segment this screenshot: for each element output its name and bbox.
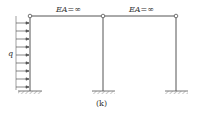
frame-drawing — [0, 0, 197, 115]
fixed-support-middle-icon — [92, 91, 115, 94]
load-label: q — [8, 50, 13, 58]
hinge-middle-icon — [101, 14, 105, 18]
frame-diagram: EA=∞ EA=∞ q (k) — [0, 0, 197, 115]
fixed-support-right-icon — [165, 91, 188, 94]
hinge-left-icon — [28, 14, 32, 18]
fixed-support-left-icon — [18, 91, 42, 94]
beam-left-label: EA=∞ — [56, 6, 81, 14]
distributed-load — [16, 16, 29, 90]
figure-caption: (k) — [96, 100, 107, 108]
hinge-right-icon — [174, 14, 178, 18]
beam-right-label: EA=∞ — [129, 6, 154, 14]
